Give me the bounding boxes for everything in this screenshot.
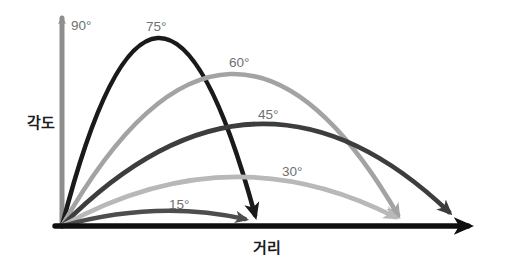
diagram-canvas: 90° 75° 60° 45° 30° 15° 각도 거리 [0, 0, 513, 269]
y-axis-label: 각도 [27, 114, 55, 131]
angle-label-15: 15° [169, 197, 189, 212]
angle-label-60: 60° [229, 55, 249, 70]
angle-label-45: 45° [258, 107, 278, 122]
angle-label-30: 30° [282, 164, 302, 179]
angle-label-90: 90° [71, 18, 91, 33]
x-axis-label: 거리 [253, 239, 281, 256]
projectile-angle-diagram: 90° 75° 60° 45° 30° 15° 각도 거리 [0, 0, 513, 269]
angle-label-75: 75° [146, 19, 166, 34]
trajectories-group [55, 18, 468, 226]
